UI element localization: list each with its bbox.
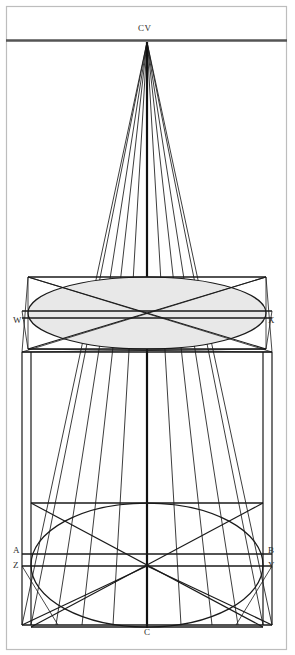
label-cv: CV [138,24,151,33]
label-a: A [13,546,20,555]
label-w: W [13,316,22,325]
label-x: X [268,316,275,325]
label-b: B [268,546,274,555]
label-z: Z [13,561,19,570]
diagram-canvas: CV W X A Z B Y C [0,0,295,655]
perspective-drawing [0,0,295,655]
label-c: C [144,628,150,637]
label-y: Y [268,561,275,570]
